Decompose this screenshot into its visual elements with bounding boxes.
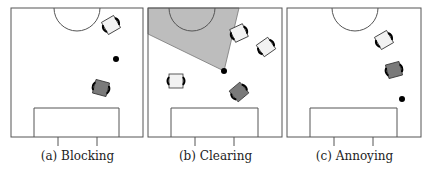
robot-body bbox=[101, 15, 120, 34]
clearing-region bbox=[148, 8, 239, 71]
caption-annoying: (c) Annoying bbox=[287, 149, 422, 163]
robot bbox=[91, 79, 111, 97]
field-panel-a bbox=[11, 8, 143, 146]
robot-body bbox=[169, 74, 183, 88]
robot-body bbox=[374, 30, 393, 49]
robot-body bbox=[229, 82, 249, 102]
ball bbox=[113, 56, 119, 62]
robot bbox=[255, 36, 277, 57]
caption-blocking: (a) Blocking bbox=[11, 149, 144, 163]
robot-body bbox=[256, 37, 275, 56]
field-panel-c bbox=[287, 8, 421, 146]
ball bbox=[399, 96, 405, 102]
robot bbox=[373, 30, 395, 51]
robot bbox=[228, 81, 250, 103]
caption-clearing: (b) Clearing bbox=[148, 149, 283, 163]
ball bbox=[221, 68, 227, 74]
robot bbox=[100, 15, 122, 36]
soccer-field-diagrams bbox=[0, 0, 430, 174]
robot bbox=[384, 61, 404, 79]
field-boundary bbox=[11, 8, 143, 137]
penalty-box bbox=[310, 108, 397, 137]
penalty-box bbox=[34, 108, 119, 137]
field-panel-b bbox=[148, 8, 282, 146]
center-circle bbox=[54, 8, 100, 31]
robot bbox=[168, 74, 185, 88]
penalty-box bbox=[171, 108, 258, 137]
center-circle bbox=[332, 8, 378, 31]
